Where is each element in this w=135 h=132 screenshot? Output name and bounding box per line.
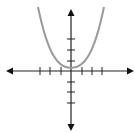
x-axis-left-arrow-icon [6, 68, 13, 75]
y-axis-top-arrow-icon [68, 9, 75, 16]
y-axis-bottom-arrow-icon [68, 124, 75, 131]
x-axis-right-arrow-icon [127, 68, 134, 75]
coordinate-plane [0, 0, 135, 132]
y-axis [68, 9, 75, 131]
